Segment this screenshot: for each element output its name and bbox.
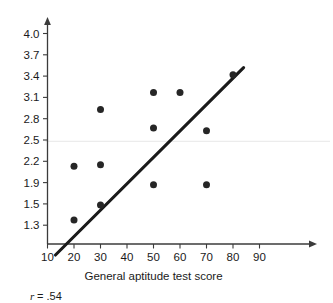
data-point bbox=[97, 161, 104, 168]
y-tick-label: 2.5 bbox=[24, 134, 40, 146]
data-point bbox=[230, 71, 237, 78]
x-axis-arrowhead bbox=[309, 240, 317, 247]
data-point bbox=[71, 216, 78, 223]
data-point bbox=[150, 181, 157, 188]
best-fit-line bbox=[55, 68, 243, 255]
y-tick-label: 2.8 bbox=[24, 113, 40, 125]
x-tick-label: 30 bbox=[94, 251, 107, 263]
y-axis-arrowhead bbox=[44, 17, 51, 25]
data-point bbox=[150, 124, 157, 131]
correlation-value: = .54 bbox=[37, 290, 62, 302]
x-tick-label: 50 bbox=[147, 251, 160, 263]
y-tick-label: 4.0 bbox=[24, 28, 40, 40]
x-tick-label: 90 bbox=[253, 251, 266, 263]
data-point bbox=[71, 163, 78, 170]
y-tick-label: 1.5 bbox=[24, 198, 40, 210]
y-tick-label: 1.3 bbox=[24, 219, 40, 231]
correlation-symbol: r bbox=[30, 290, 35, 302]
x-tick-label: 60 bbox=[174, 251, 187, 263]
y-tick-label: 3.4 bbox=[24, 70, 41, 82]
data-point bbox=[97, 201, 104, 208]
data-point bbox=[177, 89, 184, 96]
correlation-annotation: r= .54 bbox=[30, 290, 62, 302]
chart-canvas: 1.31.51.92.22.52.83.13.43.74.01020304050… bbox=[0, 0, 333, 303]
y-tick-label: 1.9 bbox=[24, 177, 40, 189]
data-point bbox=[203, 127, 210, 134]
x-tick-label: 10 bbox=[41, 251, 54, 263]
x-tick-label: 20 bbox=[68, 251, 81, 263]
y-tick-label: 3.1 bbox=[24, 91, 40, 103]
x-tick-label: 70 bbox=[200, 251, 213, 263]
y-tick-label: 3.7 bbox=[24, 49, 40, 61]
x-tick-label: 40 bbox=[121, 251, 134, 263]
x-axis-label: General aptitude test score bbox=[84, 270, 222, 282]
scatter-plot-figure: 1.31.51.92.22.52.83.13.43.74.01020304050… bbox=[0, 0, 333, 303]
y-tick-label: 2.2 bbox=[24, 155, 40, 167]
data-point bbox=[97, 106, 104, 113]
data-point bbox=[150, 89, 157, 96]
data-point bbox=[203, 181, 210, 188]
x-tick-label: 80 bbox=[227, 251, 240, 263]
